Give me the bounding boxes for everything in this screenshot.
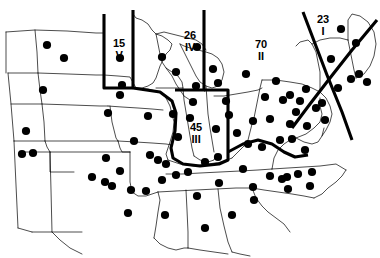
site-marker-dot	[286, 120, 294, 128]
region-label-i: 23I	[317, 14, 329, 37]
region-roman-numeral: I	[317, 26, 329, 38]
site-marker-dot	[276, 136, 284, 144]
site-marker-dot	[292, 108, 300, 116]
site-marker-dot	[154, 156, 162, 164]
site-marker-dot	[172, 68, 180, 76]
map-figure: 15V26IV70II23I45III	[0, 0, 380, 258]
site-marker-dot	[158, 176, 166, 184]
site-marker-dot	[209, 65, 217, 73]
site-marker-dot	[161, 211, 169, 219]
site-marker-dot	[249, 117, 257, 125]
site-marker-dot	[327, 55, 335, 63]
site-marker-dot	[288, 135, 296, 143]
region-count: 26	[184, 30, 196, 42]
site-marker-dot	[272, 77, 280, 85]
site-marker-dot	[261, 93, 269, 101]
site-marker-dot	[242, 70, 250, 78]
site-marker-dot	[294, 170, 302, 178]
site-marker-dot	[355, 70, 363, 78]
site-marker-dot	[222, 97, 230, 105]
site-marker-dot	[193, 192, 201, 200]
site-marker-dot	[162, 160, 170, 168]
region-count: 15	[113, 38, 125, 50]
region-roman-numeral: IV	[184, 42, 196, 54]
site-marker-dot	[146, 151, 154, 159]
site-marker-dot	[184, 168, 192, 176]
site-marker-dot	[284, 185, 292, 193]
site-marker-dot	[301, 146, 309, 154]
site-marker-dot	[102, 154, 110, 162]
site-marker-dot	[130, 137, 138, 145]
site-marker-dot	[321, 116, 329, 124]
region-roman-numeral: II	[255, 51, 267, 63]
site-marker-dot	[233, 129, 241, 137]
site-marker-dot	[172, 171, 180, 179]
site-marker-dot	[302, 85, 310, 93]
site-marker-dot	[201, 224, 209, 232]
site-marker-dot	[266, 172, 274, 180]
site-marker-dot	[144, 112, 152, 120]
site-marker-dot	[108, 182, 116, 190]
region-label-ii: 70II	[255, 39, 267, 62]
site-marker-dot	[39, 86, 47, 94]
site-marker-dot	[363, 78, 371, 86]
site-marker-dot	[104, 109, 112, 117]
site-marker-dot	[306, 182, 314, 190]
site-marker-dot	[239, 165, 247, 173]
region-roman-numeral: III	[190, 134, 202, 146]
site-marker-dot	[296, 97, 304, 105]
site-marker-dot	[174, 133, 182, 141]
site-marker-dot	[158, 53, 166, 61]
region-label-v: 15V	[113, 38, 125, 61]
site-marker-dot	[201, 158, 209, 166]
site-marker-dot	[169, 110, 177, 118]
region-count: 45	[190, 122, 202, 134]
site-marker-dot	[258, 143, 266, 151]
site-marker-dot	[225, 111, 233, 119]
site-marker-dot	[214, 153, 222, 161]
site-marker-dot	[118, 81, 126, 89]
site-marker-dot	[192, 82, 200, 90]
region-count: 23	[317, 14, 329, 26]
site-marker-dot	[266, 115, 274, 123]
site-marker-dot	[279, 96, 287, 104]
site-marker-dot	[88, 173, 96, 181]
site-marker-dot	[214, 79, 222, 87]
region-count: 70	[255, 39, 267, 51]
site-marker-dot	[18, 150, 26, 158]
site-marker-dot	[60, 54, 68, 62]
site-marker-dot	[142, 187, 150, 195]
site-marker-dot	[347, 75, 355, 83]
site-marker-dot	[244, 140, 252, 148]
site-marker-dot	[101, 178, 109, 186]
site-marker-dot	[308, 168, 316, 176]
site-marker-dot	[228, 211, 236, 219]
region-label-iv: 26IV	[184, 30, 196, 53]
site-marker-dot	[334, 84, 342, 92]
site-marker-dot	[286, 91, 294, 99]
site-marker-dot	[43, 41, 51, 49]
site-marker-dot	[189, 98, 197, 106]
site-marker-dot	[352, 39, 360, 47]
site-marker-dot	[312, 104, 320, 112]
site-marker-dot	[22, 127, 30, 135]
site-marker-dot	[303, 122, 311, 130]
site-marker-dot	[215, 179, 223, 187]
site-marker-dot	[212, 125, 220, 133]
site-marker-dot	[127, 186, 135, 194]
region-label-iii: 45III	[190, 122, 202, 145]
site-marker-dot	[250, 196, 258, 204]
site-marker-dot	[337, 25, 345, 33]
site-marker-dot	[116, 167, 124, 175]
site-marker-dot	[124, 209, 132, 217]
region-roman-numeral: V	[113, 50, 125, 62]
site-marker-dot	[249, 183, 257, 191]
site-marker-dot	[29, 149, 37, 157]
site-marker-dot	[283, 173, 291, 181]
site-marker-dot	[116, 91, 124, 99]
